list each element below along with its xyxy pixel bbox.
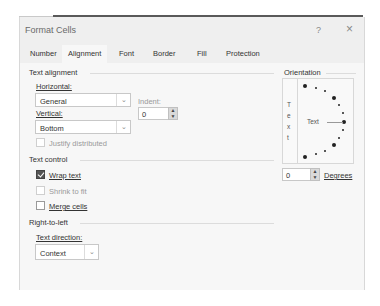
chevron-down-icon: ⌄: [116, 121, 130, 133]
indent-spinner[interactable]: 0 ▲▼: [138, 107, 178, 120]
chevron-down-icon: ⌄: [84, 245, 98, 259]
group-divider: [80, 223, 274, 224]
dial-dot: [315, 87, 317, 89]
dial-dot: [342, 112, 344, 114]
merge-cells-label: Merge cells: [49, 202, 87, 211]
tab-fill[interactable]: Fill: [197, 49, 207, 58]
dial-dot: [303, 155, 307, 159]
dial-dot: [338, 104, 340, 106]
tab-bar: Number Alignment Font Border Fill Protec…: [20, 45, 364, 63]
right-to-left-group-label: Right-to-left: [29, 218, 68, 227]
alignment-tab-panel: Text alignment Horizontal: General ⌄ Ind…: [20, 63, 364, 290]
wrap-text-checkbox[interactable]: [36, 170, 45, 179]
tab-protection[interactable]: Protection: [226, 49, 260, 58]
horizontal-label: Horizontal:: [36, 82, 72, 91]
vertical-label: Vertical:: [36, 109, 63, 118]
text-direction-label: Text direction:: [36, 233, 82, 242]
text-direction-value: Context: [40, 249, 66, 258]
orientation-group-label: Orientation: [284, 68, 321, 77]
vertical-text-toggle[interactable]: T e x t: [283, 79, 298, 163]
dial-text: Text: [307, 118, 319, 125]
dialog-title: Format Cells: [25, 25, 76, 35]
horizontal-value: General: [40, 97, 67, 106]
tab-number[interactable]: Number: [30, 49, 57, 58]
group-divider: [326, 73, 356, 74]
dial-dot: [324, 90, 326, 92]
justify-distributed-checkbox[interactable]: [36, 138, 45, 147]
orientation-control[interactable]: T e x t Text: [282, 78, 354, 164]
dial-dot: [342, 129, 344, 131]
dial-dot: [315, 153, 317, 155]
shrink-to-fit-checkbox[interactable]: [36, 186, 45, 195]
group-divider: [80, 160, 274, 161]
orientation-dial[interactable]: Text: [299, 79, 353, 163]
wrap-text-label: Wrap text: [49, 171, 81, 180]
indent-label: Indent:: [138, 97, 161, 106]
vertical-text-letter: T: [287, 101, 291, 108]
vertical-text-letter: e: [287, 112, 291, 119]
text-direction-select[interactable]: Context ⌄: [35, 244, 99, 260]
horizontal-select[interactable]: General ⌄: [35, 93, 131, 107]
degrees-label: Degrees: [324, 171, 352, 180]
chevron-down-icon: ⌄: [116, 94, 130, 106]
dial-pointer-line: [327, 122, 343, 123]
vertical-select[interactable]: Bottom ⌄: [35, 120, 131, 134]
indent-value: 0: [142, 110, 146, 119]
text-alignment-group-label: Text alignment: [29, 68, 77, 77]
tab-alignment[interactable]: Alignment: [62, 45, 107, 63]
dial-dot: [303, 84, 307, 88]
close-button[interactable]: ×: [346, 22, 353, 36]
spin-down-icon[interactable]: ▼: [171, 113, 176, 119]
help-button[interactable]: ?: [316, 25, 321, 35]
degrees-spinner[interactable]: 0 ▲▼: [282, 168, 320, 181]
justify-distributed-label: Justify distributed: [49, 139, 107, 148]
spin-down-icon[interactable]: ▼: [313, 174, 318, 180]
spin-buttons[interactable]: ▲▼: [168, 107, 178, 120]
spin-buttons[interactable]: ▲▼: [310, 168, 320, 181]
dial-dot: [332, 96, 336, 100]
group-divider: [90, 73, 274, 74]
dial-dot: [332, 143, 336, 147]
vertical-text-letter: x: [287, 123, 290, 130]
text-control-group-label: Text control: [29, 155, 67, 164]
vertical-text-letter: t: [287, 134, 289, 141]
shrink-to-fit-label: Shrink to fit: [49, 187, 87, 196]
degrees-value: 0: [286, 171, 290, 180]
tab-border[interactable]: Border: [153, 49, 176, 58]
dial-dot: [338, 137, 340, 139]
dial-dot: [324, 150, 326, 152]
format-cells-dialog: Format Cells ? × Number Alignment Font B…: [19, 17, 365, 290]
merge-cells-checkbox[interactable]: [36, 201, 45, 210]
tab-font[interactable]: Font: [119, 49, 134, 58]
vertical-value: Bottom: [40, 124, 64, 133]
